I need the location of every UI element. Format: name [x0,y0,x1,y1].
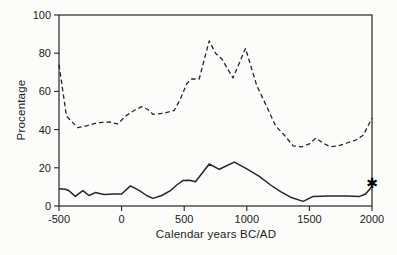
y-tick-label: 80 [39,47,51,59]
x-tick-label: 0 [119,213,125,225]
y-tick-label: 0 [45,200,51,212]
y-tick-label: 20 [39,162,51,174]
series-line-solid [59,162,372,201]
y-tick-label: 40 [39,124,51,136]
chart-canvas: 020406080100-5000500100015002000✱ [0,0,397,255]
y-tick-label: 60 [39,85,51,97]
x-axis-title: Calendar years BC/AD [156,228,276,240]
x-tick-label: 2000 [360,213,384,225]
x-tick-label: 1000 [235,213,259,225]
plot-frame [59,15,372,206]
x-tick-label: -500 [48,213,70,225]
chart-figure: 020406080100-5000500100015002000✱ Procen… [0,0,397,255]
y-tick-label: 100 [33,9,51,21]
x-tick-label: 1500 [297,213,321,225]
asterisk-marker: ✱ [366,175,378,191]
x-tick-label: 500 [175,213,193,225]
series-line-dashed [59,41,372,147]
y-axis-title: Procentage [15,80,27,141]
